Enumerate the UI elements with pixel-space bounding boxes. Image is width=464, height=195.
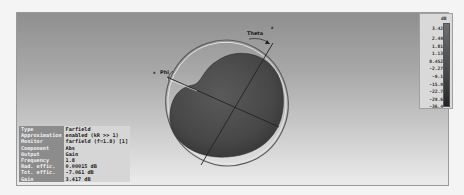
theta-axis-label: Theta <box>247 30 263 36</box>
info-label: Gain <box>19 176 64 182</box>
x-axis-label: x <box>153 70 156 75</box>
info-row-monitor: Monitorfarfield (f=1.8) [1] <box>19 138 130 144</box>
legend-tick: 2.49 <box>423 35 443 43</box>
legend-tick: -9.1 <box>423 73 443 81</box>
radiation-pattern-lobe <box>170 53 284 157</box>
color-scale-legend: dB 3.42 2.49 1.81 1.13 0.452 -2.27 -9.1 … <box>419 13 453 109</box>
legend-tick: -22.7 <box>423 88 443 96</box>
legend-tick: -29.6 <box>423 96 443 104</box>
legend-tick: 1.13 <box>423 50 443 58</box>
info-row-gain: Gain3.417 dB <box>19 176 130 182</box>
z-axis-label: z <box>271 25 273 30</box>
phi-axis-label: Phi <box>160 69 169 75</box>
legend-tick: -15.9 <box>423 81 443 89</box>
legend-tick: 1.81 <box>423 43 443 51</box>
legend-tick: -2.27 <box>423 65 443 73</box>
legend-unit: dB <box>441 16 447 21</box>
legend-tick: 3.42 <box>423 23 443 35</box>
legend-ticks: 3.42 2.49 1.81 1.13 0.452 -2.27 -9.1 -15… <box>423 23 443 111</box>
legend-tick: 0.452 <box>423 58 443 66</box>
farfield-info-table: TypeFarfield Approximationenabled (kR >>… <box>19 126 130 182</box>
legend-tick: -36.4 <box>423 103 443 111</box>
legend-color-bar <box>443 23 450 107</box>
farfield-3d-viewport[interactable]: Theta z Phi x TypeFarfield Approximation… <box>16 12 449 186</box>
info-value: farfield (f=1.8) [1] <box>64 138 130 144</box>
info-value: 3.417 dB <box>64 176 130 182</box>
